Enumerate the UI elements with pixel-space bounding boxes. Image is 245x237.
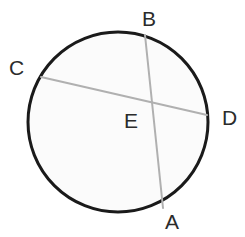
vertex-label-b: B bbox=[142, 8, 156, 29]
diagram-canvas bbox=[0, 0, 245, 237]
vertex-label-a: A bbox=[165, 211, 179, 232]
vertex-label-c: C bbox=[9, 57, 24, 78]
circle-geometry-diagram: B C D E A bbox=[0, 0, 245, 237]
vertex-label-e: E bbox=[124, 110, 138, 131]
circle-shape bbox=[28, 32, 208, 212]
vertex-label-d: D bbox=[222, 107, 237, 128]
